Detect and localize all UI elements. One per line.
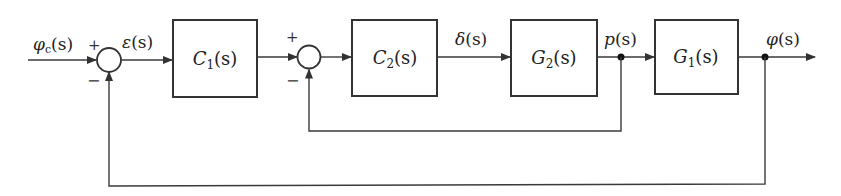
svg-text:C1(s): C1(s)	[193, 48, 238, 72]
block-c1: C1(s)	[173, 20, 257, 97]
error-label: ε(s)	[122, 32, 153, 52]
sum1-plus-sign: +	[88, 36, 101, 54]
block-g1: G1(s)	[655, 20, 738, 94]
input-label: φc(s)	[33, 34, 73, 56]
svg-text:G1(s): G1(s)	[673, 46, 718, 70]
p-label: p(s)	[604, 29, 637, 49]
block-c2: C2(s)	[352, 20, 437, 96]
svg-text:G2(s): G2(s)	[531, 47, 576, 71]
sum2-plus-sign: +	[286, 28, 299, 46]
output-label: φ(s)	[766, 29, 800, 49]
block-g2: G2(s)	[511, 20, 597, 96]
sum2-minus-sign: −	[286, 71, 299, 90]
block-diagram: φc(s) + − ε(s) C1(s) + −	[0, 0, 841, 196]
summing-junction-2: + −	[286, 28, 321, 90]
delta-label: δ(s)	[455, 29, 487, 49]
summing-junction-1: + −	[87, 36, 121, 90]
svg-text:C2(s): C2(s)	[373, 47, 418, 71]
sum1-minus-sign: −	[87, 71, 100, 90]
